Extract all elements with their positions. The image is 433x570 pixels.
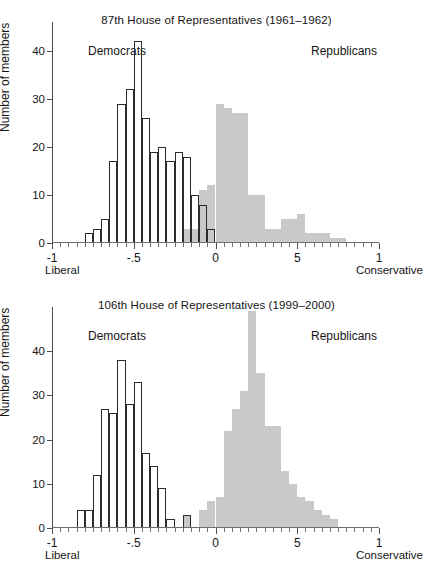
x-tick-minor	[314, 528, 315, 532]
y-axis-label: Number of members	[0, 308, 12, 417]
y-tick	[47, 99, 52, 100]
x-tick-minor	[85, 243, 86, 247]
x-tick-minor	[232, 528, 233, 532]
x-tick-minor	[77, 528, 78, 532]
y-tick	[47, 195, 52, 196]
x-tick-major	[216, 243, 217, 249]
x-tick-minor	[109, 528, 110, 532]
y-tick-label: 20	[32, 434, 45, 446]
histogram-bar	[134, 41, 142, 243]
histogram-bar	[126, 404, 134, 528]
histogram-bar	[281, 471, 289, 528]
x-tick-label: 1	[376, 536, 383, 550]
x-tick-minor	[322, 528, 323, 532]
y-tick	[47, 484, 52, 485]
histogram-bar	[224, 108, 232, 243]
x-tick-label: 5	[294, 251, 301, 265]
y-tick-label: 10	[32, 189, 45, 201]
histogram-bar	[248, 311, 256, 528]
y-tick-label: 10	[32, 478, 45, 490]
x-tick-minor	[117, 243, 118, 247]
y-tick-label: 30	[32, 389, 45, 401]
histogram-bar	[166, 161, 174, 243]
x-tick-minor	[265, 243, 266, 247]
x-tick-minor	[289, 528, 290, 532]
histogram-bar	[109, 161, 117, 243]
x-tick-minor	[68, 528, 69, 532]
histogram-bar	[216, 497, 224, 528]
y-tick	[47, 440, 52, 441]
axis-end-label-liberal: Liberal	[45, 264, 80, 276]
x-tick-minor	[265, 528, 266, 532]
x-tick-minor	[60, 528, 61, 532]
histogram-bar	[109, 413, 117, 528]
x-tick-major	[216, 528, 217, 534]
histogram-bar	[85, 510, 93, 528]
x-tick-minor	[224, 528, 225, 532]
x-tick-label: -1	[47, 251, 58, 265]
x-tick-minor	[191, 243, 192, 247]
plot-area: 010203040 -1-.5051	[52, 22, 379, 243]
x-tick-minor	[85, 528, 86, 532]
x-tick-minor	[199, 528, 200, 532]
y-tick-label: 40	[32, 45, 45, 57]
x-tick-minor	[289, 243, 290, 247]
x-tick-minor	[273, 243, 274, 247]
x-tick-minor	[248, 528, 249, 532]
y-tick	[47, 351, 52, 352]
x-tick-minor	[183, 243, 184, 247]
x-tick-minor	[330, 243, 331, 247]
y-tick-label: 0	[39, 522, 45, 534]
x-tick-label: 0	[212, 536, 219, 550]
x-tick-minor	[166, 528, 167, 532]
histogram-bar	[232, 409, 240, 528]
x-tick-minor	[363, 243, 364, 247]
x-tick-minor	[346, 528, 347, 532]
x-tick-minor	[232, 243, 233, 247]
x-tick-minor	[354, 243, 355, 247]
histogram-bar	[191, 195, 199, 243]
histogram-bar	[281, 219, 289, 243]
x-tick-minor	[281, 243, 282, 247]
histogram-bar	[93, 475, 101, 528]
y-axis	[52, 22, 53, 243]
x-tick-minor	[126, 243, 127, 247]
histogram-bar	[101, 409, 109, 528]
x-tick-minor	[371, 528, 372, 532]
x-tick-minor	[224, 243, 225, 247]
histogram-bar	[240, 113, 248, 243]
x-tick-minor	[175, 528, 176, 532]
x-tick-minor	[207, 243, 208, 247]
x-tick-minor	[150, 528, 151, 532]
x-tick-major	[379, 243, 380, 249]
x-tick-minor	[191, 528, 192, 532]
x-tick-minor	[150, 243, 151, 247]
y-tick-label: 40	[32, 345, 45, 357]
histogram-bar	[134, 382, 142, 528]
x-tick-minor	[240, 243, 241, 247]
histogram-bar	[297, 497, 305, 528]
plot-area: 010203040 -1-.5051	[52, 307, 379, 528]
x-tick-label: -1	[47, 536, 58, 550]
bars-container	[52, 307, 379, 528]
histogram-bar	[199, 510, 207, 528]
x-tick-minor	[305, 528, 306, 532]
x-tick-minor	[371, 243, 372, 247]
x-tick-minor	[142, 528, 143, 532]
y-axis-label: Number of members	[0, 23, 12, 132]
x-tick-minor	[240, 528, 241, 532]
histogram-bar	[256, 373, 264, 528]
x-tick-minor	[330, 528, 331, 532]
x-tick-minor	[305, 243, 306, 247]
chart-panel-87th: 87th House of Representatives (1961–1962…	[0, 0, 433, 285]
axis-end-label-liberal: Liberal	[45, 549, 80, 561]
x-tick-minor	[101, 243, 102, 247]
x-tick-major	[297, 243, 298, 249]
histogram-bar	[150, 152, 158, 243]
y-tick-label: 0	[39, 237, 45, 249]
x-tick-minor	[158, 243, 159, 247]
histogram-bar	[142, 118, 150, 243]
histogram-bar	[216, 104, 224, 243]
x-tick-minor	[109, 243, 110, 247]
x-tick-label: 1	[376, 251, 383, 265]
